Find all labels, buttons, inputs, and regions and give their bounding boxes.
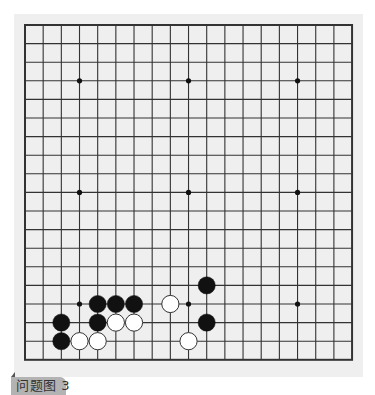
black-stone[interactable]	[53, 333, 70, 350]
star-point-icon	[186, 190, 191, 195]
star-point-icon	[186, 78, 191, 83]
star-point-icon	[295, 190, 300, 195]
white-stone[interactable]	[125, 314, 142, 331]
white-stone[interactable]	[89, 333, 106, 350]
problem-caption-label: 问题图 3	[16, 378, 70, 393]
go-board[interactable]	[0, 0, 375, 395]
black-stone[interactable]	[53, 314, 70, 331]
white-stone[interactable]	[71, 333, 88, 350]
black-stone[interactable]	[107, 295, 124, 312]
star-point-icon	[77, 190, 82, 195]
black-stone[interactable]	[198, 314, 215, 331]
black-stone[interactable]	[198, 277, 215, 294]
problem-caption-tab: 问题图 3	[11, 377, 66, 395]
black-stone[interactable]	[125, 295, 142, 312]
star-point-icon	[186, 301, 191, 306]
black-stone[interactable]	[89, 314, 106, 331]
white-stone[interactable]	[180, 333, 197, 350]
star-point-icon	[77, 301, 82, 306]
white-stone[interactable]	[162, 295, 179, 312]
star-point-icon	[295, 78, 300, 83]
star-point-icon	[295, 301, 300, 306]
white-stone[interactable]	[107, 314, 124, 331]
black-stone[interactable]	[89, 295, 106, 312]
star-point-icon	[77, 78, 82, 83]
